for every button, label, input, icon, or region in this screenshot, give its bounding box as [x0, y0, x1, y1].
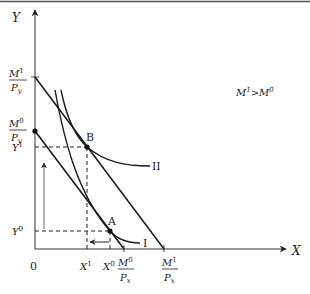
point-b-label: B	[86, 131, 94, 144]
point-a-label: A	[107, 215, 117, 228]
origin-label: 0	[30, 260, 37, 273]
y-axis-label: Y	[12, 11, 21, 25]
svg-text:M0: M0	[8, 117, 24, 129]
y-intercept-m1-py: M1 Py	[8, 67, 27, 95]
y1-tick-label: Y1	[12, 141, 23, 153]
svg-text:M0: M0	[117, 256, 133, 268]
svg-text:Px: Px	[163, 272, 175, 285]
income-comparison-annotation: M1>M0	[235, 86, 274, 98]
x1-tick-label: X1	[79, 260, 92, 272]
x-axis-label: X	[291, 244, 301, 258]
point-a	[107, 228, 112, 233]
income-effect-diagram: Y X 0 M1>M0 M1 Py M0 Py Y1 Y0 X1 X0 M0 P…	[0, 0, 310, 294]
x-intercept-m0-px: M0 Px	[117, 256, 134, 285]
point-b	[84, 144, 89, 149]
x0-tick-label: X0	[102, 260, 115, 272]
svg-text:M1: M1	[8, 67, 24, 79]
budget-line-m1	[35, 77, 164, 249]
svg-text:M1: M1	[161, 256, 177, 268]
svg-text:Px: Px	[119, 272, 131, 285]
curve-i-label: I	[143, 237, 147, 250]
intercept-dot-m0	[32, 128, 37, 133]
y0-tick-label: Y0	[12, 225, 23, 237]
axes	[35, 10, 286, 249]
curve-ii-label: II	[152, 160, 161, 173]
svg-text:Py: Py	[10, 82, 23, 95]
y-intercept-m0-py: M0 Py	[8, 117, 27, 145]
indifference-curve-ii	[61, 90, 150, 166]
x-intercept-m1-px: M1 Px	[161, 256, 178, 285]
